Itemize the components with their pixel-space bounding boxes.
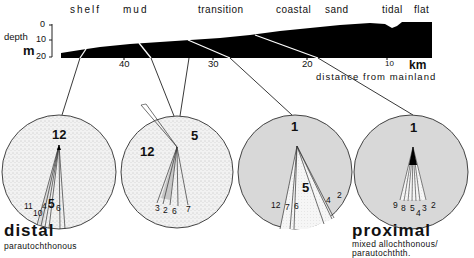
caption-proximal-sub-2: parautochthth. bbox=[352, 249, 411, 258]
pie1-label-12: 12 bbox=[52, 128, 66, 141]
pie2-label-2: 2 bbox=[163, 206, 168, 215]
pie3-label-7: 7 bbox=[285, 203, 290, 212]
pie4-label-2: 2 bbox=[431, 201, 436, 210]
zone-label-transition: transition bbox=[198, 5, 244, 15]
pie3-label-12: 12 bbox=[271, 201, 280, 210]
pie2-label-12: 12 bbox=[140, 145, 154, 158]
zone-label-coastal: coastal bbox=[276, 5, 311, 15]
depth-axis bbox=[49, 24, 52, 57]
depth-tick-0: 0 bbox=[40, 20, 45, 29]
pie3-label-4: 4 bbox=[326, 196, 331, 205]
zone-label-tidal: tidal bbox=[382, 5, 403, 15]
pie1-label-5: 5 bbox=[48, 198, 55, 210]
zone-label-shelf: shelf bbox=[70, 5, 101, 15]
pie4-label-4: 4 bbox=[416, 209, 421, 218]
depth-tick-20: 20 bbox=[36, 52, 46, 61]
pie3-label-1: 1 bbox=[291, 120, 298, 133]
depth-axis-title: depth bbox=[4, 32, 28, 42]
caption-distal-sub: parautochthonous bbox=[4, 242, 77, 251]
pie4-label-9: 9 bbox=[393, 201, 398, 210]
depth-tick-10: 10 bbox=[36, 35, 46, 44]
seafloor-profile bbox=[61, 22, 432, 58]
distance-tick-30: 30 bbox=[208, 59, 219, 69]
pie3-label-2: 2 bbox=[337, 191, 342, 200]
pie2-label-6: 6 bbox=[172, 207, 177, 216]
depth-axis-unit: m bbox=[23, 44, 35, 57]
pie3-label-6: 6 bbox=[294, 202, 299, 211]
pie3-label-5: 5 bbox=[302, 181, 309, 194]
caption-distal: distal bbox=[4, 222, 54, 239]
distance-tick-10: 10 bbox=[385, 60, 394, 68]
distance-tick-20: 20 bbox=[302, 59, 313, 69]
distance-tick-40: 40 bbox=[119, 59, 130, 69]
pie4-label-5: 5 bbox=[410, 204, 415, 213]
pie2-label-7: 7 bbox=[186, 205, 191, 214]
pie1-label-4: 4 bbox=[42, 202, 47, 211]
pie4-label-1: 1 bbox=[410, 121, 417, 134]
zone-label-flat: flat bbox=[414, 5, 429, 15]
pie1-label-11: 11 bbox=[24, 202, 33, 211]
caption-proximal: proximal bbox=[352, 222, 431, 239]
pie2-label-5: 5 bbox=[191, 129, 198, 142]
zone-label-mud: mud bbox=[123, 5, 148, 15]
pie1-label-6: 6 bbox=[56, 204, 61, 213]
pie2-label-3: 3 bbox=[155, 204, 160, 213]
distance-ticks bbox=[124, 58, 387, 60]
zone-label-sand: sand bbox=[325, 5, 349, 15]
distance-axis-title: distance from mainland bbox=[316, 72, 436, 82]
pie-chart-shelf-mud bbox=[121, 104, 233, 228]
distance-axis-unit: km bbox=[409, 59, 426, 71]
pie4-label-3: 3 bbox=[422, 204, 427, 213]
pie4-label-8: 8 bbox=[401, 204, 406, 213]
